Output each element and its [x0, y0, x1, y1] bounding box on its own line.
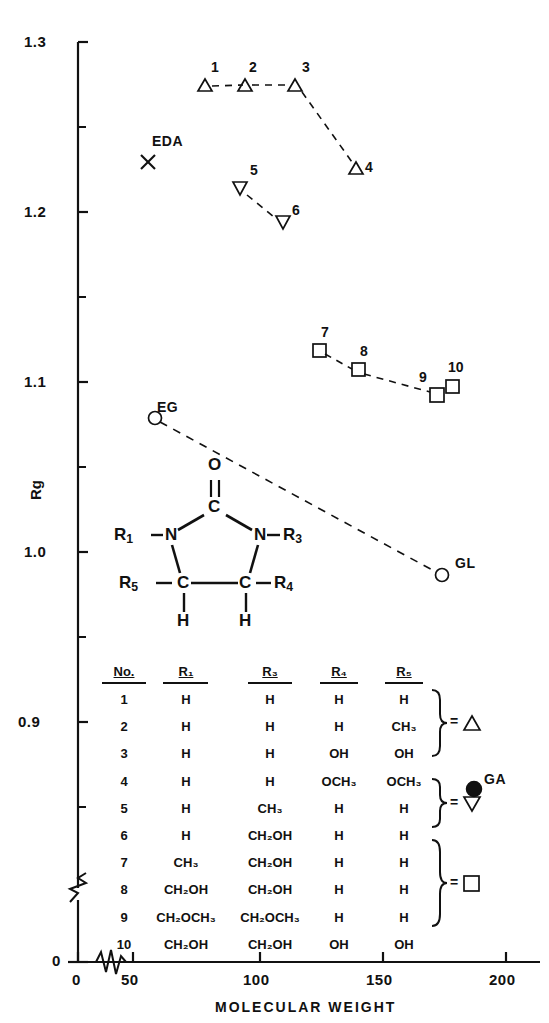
r5-letter: R — [119, 573, 131, 592]
legend-equals-square: = — [450, 875, 458, 889]
connector-7-8 — [325, 354, 352, 369]
y-tick-label-0-9: 0.9 — [18, 714, 40, 729]
atom-label-n-left: N — [165, 526, 177, 543]
point-label-8: 8 — [360, 344, 368, 358]
table-cell-r7-r3: CH₂OH — [248, 855, 292, 870]
legend-marker-triangle-up — [464, 716, 480, 730]
table-cell-r1-r3: H — [265, 692, 274, 707]
connector-3-4 — [302, 92, 352, 162]
marker-point-7[interactable] — [313, 344, 326, 357]
table-cell-r2-r3: H — [265, 719, 274, 734]
table-cell-r2-no: 2 — [120, 719, 127, 734]
marker-point-6[interactable] — [276, 216, 290, 229]
atom-label-h-right: H — [239, 612, 251, 629]
series-triangle-down — [233, 182, 290, 229]
table-cell-r4-no: 4 — [120, 774, 127, 789]
table-cell-r5-r4: H — [334, 801, 343, 816]
atom-label-o: O — [208, 456, 221, 473]
x-tick-label-150: 150 — [366, 972, 393, 987]
table-cell-r7-r1: CH₃ — [174, 855, 199, 870]
point-label-7: 7 — [321, 325, 329, 339]
table-cell-r10-r5: OH — [394, 937, 414, 952]
table-header-r1: R₁ — [179, 664, 194, 679]
table-cell-r3-no: 3 — [120, 746, 127, 761]
table-cell-r3-r4: OH — [329, 746, 349, 761]
table-cell-r1-no: 1 — [120, 692, 127, 707]
marker-point-gl[interactable] — [436, 569, 449, 582]
marker-point-8[interactable] — [352, 363, 365, 376]
x-axis-title: MOLECULAR WEIGHT — [215, 1000, 396, 1014]
series-triangle-up — [198, 79, 363, 174]
table-cell-r6-r3: CH₂OH — [248, 828, 292, 843]
table-cell-r5-no: 5 — [120, 801, 127, 816]
x-tick-label-0: 0 — [72, 972, 81, 987]
series-square — [313, 344, 459, 402]
r1-letter: R — [114, 525, 126, 544]
y-minor-ticks — [78, 127, 86, 807]
bond-c-nleft — [178, 515, 204, 530]
table-cell-r3-r1: H — [181, 746, 190, 761]
brace-group-square — [432, 840, 447, 926]
marker-point-1[interactable] — [198, 79, 212, 91]
y-tick-label-1-1: 1.1 — [24, 374, 46, 389]
y-tick-label-1-3: 1.3 — [24, 34, 46, 49]
atom-label-c-left: C — [177, 574, 189, 591]
x-tick-label-100: 100 — [243, 972, 270, 987]
r1-subscript: 1 — [126, 532, 133, 546]
substituent-label-r1: R1 — [114, 526, 133, 545]
point-label-4: 4 — [365, 160, 373, 174]
table-header-r4: R₄ — [331, 664, 347, 679]
x-tick-label-50: 50 — [121, 972, 139, 987]
y-axis-title-text: Rg — [27, 480, 44, 500]
table-cell-r10-r1: CH₂OH — [164, 937, 208, 952]
r4-subscript: 4 — [286, 580, 293, 594]
legend-marker-triangle-down — [464, 797, 480, 811]
marker-point-4[interactable] — [349, 162, 363, 174]
marker-point-3[interactable] — [288, 79, 302, 91]
bond-c-nright — [226, 515, 252, 530]
marker-point-10[interactable] — [446, 380, 459, 393]
marker-point-ga[interactable] — [467, 782, 482, 797]
table-cell-r3-r3: H — [265, 746, 274, 761]
y-tick-label-1-2: 1.2 — [24, 204, 46, 219]
table-cell-r10-r3: CH₂OH — [248, 937, 292, 952]
marker-point-9[interactable] — [430, 388, 444, 402]
y-tick-label-1-0: 1.0 — [24, 544, 46, 559]
table-cell-r4-r5: OCH₃ — [387, 774, 422, 789]
connector-1-2 — [212, 85, 243, 86]
table-cell-r6-r4: H — [334, 828, 343, 843]
point-label-eg: EG — [157, 400, 178, 414]
table-header-r5: R₅ — [396, 664, 411, 679]
table-cell-r8-r5: H — [399, 882, 408, 897]
r3-subscript: 3 — [295, 532, 302, 546]
table-cell-r2-r1: H — [181, 719, 190, 734]
substituent-label-r5: R5 — [119, 574, 138, 593]
point-label-9: 9 — [419, 370, 427, 384]
table-cell-r6-r1: H — [181, 828, 190, 843]
table-cell-r1-r4: H — [334, 692, 343, 707]
table-cell-r4-r4: OCH₃ — [322, 774, 357, 789]
legend-marker-square — [464, 876, 479, 891]
table-cell-r1-r1: H — [181, 692, 190, 707]
series-eda — [141, 155, 155, 169]
table-cell-r1-r5: H — [399, 692, 408, 707]
marker-point-5[interactable] — [233, 182, 247, 195]
point-label-ga: GA — [484, 772, 506, 786]
point-label-2: 2 — [249, 60, 257, 74]
y-tick-label-0: 0 — [52, 953, 61, 968]
substituent-label-r3: R3 — [283, 526, 302, 545]
connector-5-6 — [247, 195, 274, 217]
table-cell-r3-r5: OH — [394, 746, 414, 761]
table-cell-r10-no: 10 — [117, 937, 131, 952]
point-label-6: 6 — [292, 203, 300, 217]
table-cell-r9-no: 9 — [120, 910, 127, 925]
table-cell-r8-r4: H — [334, 882, 343, 897]
r5-subscript: 5 — [131, 580, 138, 594]
table-cell-r8-no: 8 — [120, 882, 127, 897]
r4-letter: R — [274, 573, 286, 592]
table-header-no: No. — [114, 664, 135, 679]
table-cell-r4-r3: H — [265, 774, 274, 789]
table-cell-r7-r5: H — [399, 855, 408, 870]
r3-letter: R — [283, 525, 295, 544]
point-label-eda: EDA — [152, 134, 183, 148]
